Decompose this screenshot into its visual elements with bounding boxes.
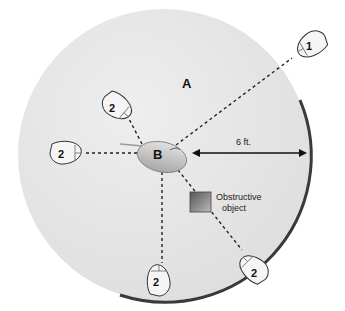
mouse-2-bottom-right-label: 2 xyxy=(251,267,257,279)
obstacle-label-2: object xyxy=(222,203,247,213)
distance-label: 6 ft. xyxy=(236,137,251,147)
mouse-1-label: 1 xyxy=(306,40,312,52)
receiver-label: B xyxy=(153,147,162,162)
mouse-2-bottom-label: 2 xyxy=(153,276,159,288)
wireless-range-diagram: A 6 ft. B Obstructive object 1 2 2 xyxy=(0,0,345,311)
obstacle-icon xyxy=(190,192,211,212)
obstacle-label-1: Obstructive xyxy=(216,192,262,202)
mouse-2-left-label: 2 xyxy=(58,148,64,160)
mouse-2-upper-left-label: 2 xyxy=(109,102,115,114)
zone-label: A xyxy=(182,76,192,91)
